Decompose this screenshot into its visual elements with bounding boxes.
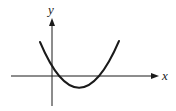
x-axis-arrow-icon (151, 73, 159, 79)
x-axis-label: x (162, 69, 168, 82)
parabola-graph: y x (0, 0, 176, 111)
graph-canvas (0, 0, 176, 111)
y-axis-arrow-icon (49, 18, 55, 26)
y-axis-label: y (48, 3, 54, 16)
